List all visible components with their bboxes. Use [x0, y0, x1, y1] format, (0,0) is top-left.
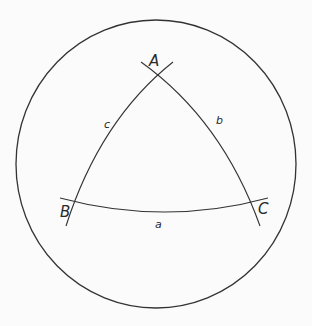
side-label-c: c [104, 119, 110, 130]
diagram-canvas [0, 0, 312, 326]
vertex-label-b: B [60, 205, 70, 220]
side-label-a: a [155, 219, 162, 230]
side-label-b: b [216, 115, 223, 126]
vertex-label-a: A [149, 54, 159, 69]
vertex-label-c: C [258, 202, 268, 217]
arc-side-a [60, 198, 268, 212]
spherical-triangle-diagram: A B C c b a [0, 0, 312, 326]
arc-side-c [66, 62, 173, 226]
arc-side-b [141, 62, 260, 226]
